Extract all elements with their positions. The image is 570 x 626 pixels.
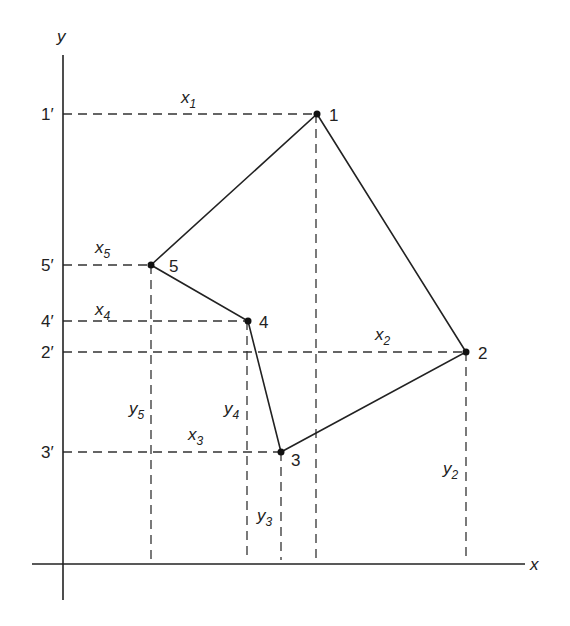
x2-label: x2 xyxy=(374,325,391,348)
y-axis-label: y xyxy=(56,27,67,46)
projection-label-1: 1′ xyxy=(41,105,54,124)
vertex-4-label: 4 xyxy=(259,313,268,332)
projection-label-2: 2′ xyxy=(41,343,54,362)
x1-label: x1 xyxy=(180,88,196,111)
vertex-2-dot xyxy=(463,349,470,356)
vertex-4-dot xyxy=(245,318,252,325)
polygon-outline xyxy=(151,114,466,452)
vertex-points xyxy=(148,111,470,456)
vertex-1-label: 1 xyxy=(329,106,338,125)
vertex-5-dot xyxy=(148,262,155,269)
y4-label: y4 xyxy=(223,399,240,422)
y3-label: y3 xyxy=(256,506,273,529)
x4-label: x4 xyxy=(94,300,111,323)
vertex-5-label: 5 xyxy=(169,257,178,276)
x5-label: x5 xyxy=(94,238,111,261)
projection-label-4: 4′ xyxy=(41,312,54,331)
horizontal-projection-lines xyxy=(63,114,466,452)
vertex-2-label: 2 xyxy=(478,344,487,363)
projection-label-5: 5′ xyxy=(41,256,54,275)
vertex-1-dot xyxy=(314,111,321,118)
x3-label: x3 xyxy=(187,425,204,448)
vertical-projection-lines xyxy=(151,114,466,560)
vertex-3-dot xyxy=(278,449,285,456)
vertex-3-label: 3 xyxy=(291,451,300,470)
projection-label-3: 3′ xyxy=(41,443,54,462)
polygon-coordinate-diagram: 1 2 3 4 5 1′ 5′ 4′ 2′ 3′ y x x1 x2 x3 x4… xyxy=(0,0,570,626)
x-axis-label: x xyxy=(529,555,539,574)
y5-label: y5 xyxy=(128,399,145,422)
y2-label: y2 xyxy=(442,459,459,482)
